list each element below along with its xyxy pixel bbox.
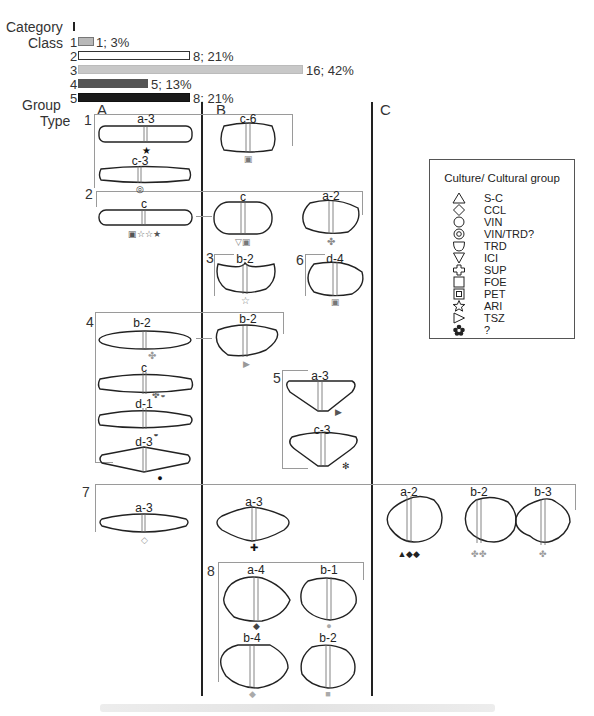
specimen-code: a-3	[124, 502, 164, 514]
circle-icon	[452, 216, 466, 228]
specimen-code: b-2	[459, 486, 499, 498]
specimen-code: c	[124, 198, 164, 210]
legend-title: Culture/ Cultural group	[430, 172, 574, 184]
cross-filled-icon: ✚	[244, 543, 264, 552]
specimen-code: a-2	[389, 486, 429, 498]
culture-legend: Culture/ Cultural group S-C CCL VIN VIN/…	[429, 159, 575, 339]
half-circle-icon	[452, 240, 466, 252]
specimen-code: c-3	[120, 155, 160, 167]
double-square-icon	[452, 288, 466, 300]
specimen-code: c-3	[302, 424, 342, 436]
triangle-down-icon	[452, 252, 466, 264]
cross-icon: ✤	[142, 351, 162, 360]
double-circle-icon: ◎	[120, 185, 160, 194]
figure-caption-blurred	[100, 704, 495, 712]
square-gray-icon: ■	[318, 690, 338, 699]
cross-pair-icon: ✤✤	[459, 550, 499, 559]
specimen-code: b-4	[232, 632, 272, 644]
specimen-code: a-3	[300, 370, 340, 382]
specimen-code: d-3	[124, 436, 164, 448]
specimen-code: b-2	[228, 313, 268, 325]
specimen-code: a-3	[234, 496, 274, 508]
specimen-code: c	[223, 191, 263, 203]
triangle-right-icon: ▶	[236, 360, 256, 369]
diamond-filled-icon: ◆	[246, 622, 266, 631]
flower-icon: ✻	[338, 462, 354, 471]
star-outline-icon: ☆	[225, 296, 265, 305]
triangle-square-marks-icon: ▽▣	[223, 238, 263, 247]
diamond-gray-icon: ◆	[242, 690, 262, 699]
square-icon	[452, 276, 466, 288]
cross-icon: ✤	[311, 237, 351, 246]
triangle-right-icon: ▶	[330, 408, 346, 417]
cross-icon	[452, 264, 466, 276]
flower-icon	[452, 324, 466, 336]
specimen-code: a-4	[236, 564, 276, 576]
double-square-icon: ▣	[315, 298, 355, 307]
specimen-code: a-2	[311, 190, 351, 202]
triangle-up-icon	[452, 192, 466, 204]
diamond-icon: ◇	[134, 536, 154, 545]
triangle-right-icon	[452, 312, 466, 324]
specimen-code: a-3	[126, 113, 166, 125]
double-circle-icon	[452, 228, 466, 240]
specimen-outlines	[0, 0, 594, 716]
specimen-code: d-1	[124, 398, 164, 410]
triangle-diamond-marks-icon: ▲◆◆	[389, 550, 429, 559]
specimen-code: c-6	[228, 113, 268, 125]
diamond-icon	[452, 204, 466, 216]
mixed-marks-icon: ▣☆☆★	[114, 230, 174, 239]
specimen-code: b-1	[309, 564, 349, 576]
circle-filled-icon: ●	[152, 474, 168, 483]
specimen-code: b-2	[122, 317, 162, 329]
specimen-code: d-4	[315, 253, 355, 265]
circle-gray-icon: ●	[319, 622, 339, 631]
cross-icon: ✤	[523, 550, 563, 559]
specimen-code: b-2	[308, 632, 348, 644]
specimen-code: b-2	[225, 253, 265, 265]
star-icon	[452, 300, 466, 312]
specimen-code: c	[124, 362, 164, 374]
double-square-icon: ▣	[228, 155, 268, 164]
specimen-code: b-3	[523, 486, 563, 498]
